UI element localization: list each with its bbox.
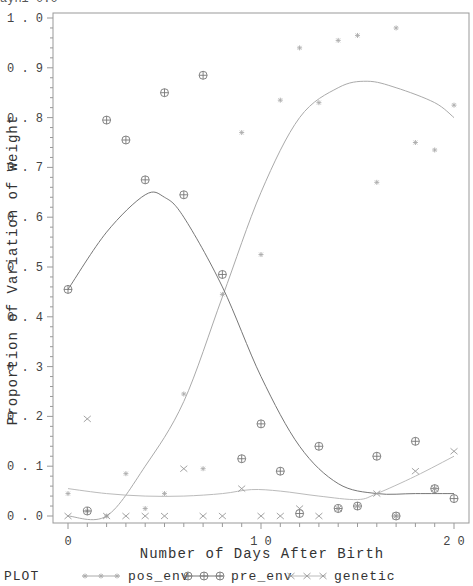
legend-label: genetic xyxy=(334,569,396,584)
plot-frame xyxy=(53,13,469,523)
legend-item-pre-env: pre_env xyxy=(184,569,293,584)
legend: PLOTpos_envpre_envgenetic xyxy=(4,569,396,584)
fit-curves xyxy=(68,81,454,519)
legend-title: PLOT xyxy=(4,569,39,584)
legend-label: pos_env xyxy=(128,569,190,584)
y-tick-label: 0 . 9 xyxy=(7,62,43,76)
x-axis-title: Number of Days After Birth xyxy=(140,546,384,562)
x-tick-label: 0 xyxy=(64,535,71,549)
pre-env-fit-line xyxy=(68,192,454,494)
plot-border xyxy=(53,13,469,523)
chart-canvas: 0 . 00 . 10 . 20 . 30 . 40 . 50 . 60 . 7… xyxy=(0,0,473,586)
y-axis-title: Proportion of Variation of Weight xyxy=(5,115,21,425)
data-points xyxy=(64,25,458,520)
pos-env-fit-line xyxy=(68,81,454,519)
x-tick-label: 2 0 xyxy=(443,535,465,549)
legend-item-genetic: genetic xyxy=(288,569,396,584)
genetic-series xyxy=(65,416,458,519)
genetic-fit-line xyxy=(68,456,454,499)
y-tick-label: 0 . 0 xyxy=(7,510,43,524)
legend-item-pos-env: pos_env xyxy=(82,569,190,584)
pos-env-series xyxy=(66,25,457,518)
pre-env-series xyxy=(64,71,458,520)
y-tick-label: 0 . 1 xyxy=(7,460,43,474)
legend-label: pre_env xyxy=(231,569,293,584)
y-tick-label: 1 . 0 xyxy=(7,12,43,26)
